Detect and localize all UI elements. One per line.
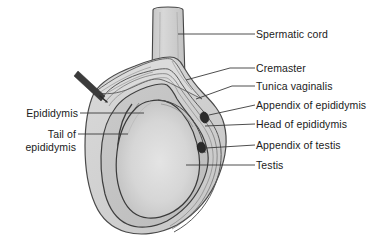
label-tail-of-epididymis-line1: Tail of xyxy=(0,128,76,141)
label-head-of-epididymis: Head of epididymis xyxy=(256,118,347,131)
leader-cremaster xyxy=(186,68,230,80)
label-appendix-of-epididymis: Appendix of epididymis xyxy=(256,99,366,112)
label-cremaster: Cremaster xyxy=(256,62,306,75)
anatomy-figure: Spermatic cord Cremaster Tunica vaginali… xyxy=(0,0,390,243)
label-tunica-vaginalis: Tunica vaginalis xyxy=(256,80,333,93)
label-epididymis: Epididymis xyxy=(0,107,78,120)
label-testis: Testis xyxy=(256,159,283,172)
label-spermatic-cord: Spermatic cord xyxy=(256,28,328,41)
label-tail-of-epididymis-line2: epididymis xyxy=(0,141,76,154)
label-appendix-of-testis: Appendix of testis xyxy=(256,139,341,152)
